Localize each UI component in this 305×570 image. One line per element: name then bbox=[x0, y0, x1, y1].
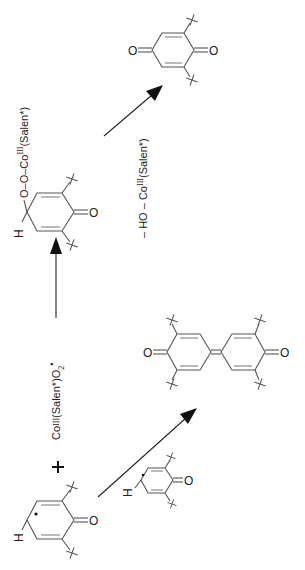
plus-sign bbox=[52, 461, 64, 473]
oxygen-label: O bbox=[89, 206, 98, 220]
svg-text:O–O–CoIII(Salen*): O–O–CoIII(Salen*) bbox=[16, 107, 30, 198]
hydrogen-label: H bbox=[12, 533, 26, 542]
oxygen-right-label: O bbox=[209, 44, 218, 58]
hydrogen-label: H bbox=[12, 229, 26, 238]
oxygen-left-label: O bbox=[143, 346, 152, 360]
oxygen-left-label: O bbox=[128, 44, 137, 58]
arrow-to-diphenoquinone bbox=[98, 408, 197, 497]
phenoxyl-radical-start: O H bbox=[12, 479, 98, 560]
reaction-scheme: O H CoIII(Salen*)O2• O bbox=[0, 0, 305, 570]
svg-text:CoIII(Salen*)O2•: CoIII(Salen*)O2• bbox=[47, 362, 66, 440]
oxygen-label: O bbox=[184, 474, 193, 488]
peroxo-chain-label: O–O–CoIII(Salen*) bbox=[16, 107, 30, 198]
svg-text:– HO – CoIII(Salen*): – HO – CoIII(Salen*) bbox=[136, 138, 149, 238]
radical-dot bbox=[142, 474, 145, 477]
hydrogen-label: H bbox=[121, 488, 135, 497]
phenoxyl-radical-second: O H bbox=[121, 451, 193, 510]
arrow-to-peroxo bbox=[50, 237, 62, 318]
arrow-to-quinone bbox=[104, 85, 163, 136]
elimination-label: – HO – CoIII(Salen*) bbox=[136, 138, 149, 238]
diphenoquinone-product: O O bbox=[143, 312, 289, 391]
quinone-product: O O bbox=[128, 12, 218, 87]
radical-dot bbox=[34, 512, 37, 515]
oxygen-right-label: O bbox=[280, 346, 289, 360]
oxygen-label: O bbox=[89, 514, 98, 528]
reagent-label: CoIII(Salen*)O2• bbox=[47, 362, 66, 440]
